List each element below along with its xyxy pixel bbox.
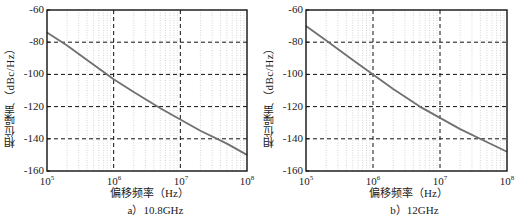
- x-axis-label: 偏移频率（Hz）: [279, 184, 518, 200]
- chart-panel-b: 相位噪声（dBc/Hz） -60 -80 -100 -120 -140 -160…: [259, 0, 518, 221]
- x-axis-label: 偏移频率（Hz）: [20, 184, 279, 200]
- chart-caption: a）10.8GHz: [26, 201, 285, 217]
- chart-panel-a: 相位噪声（dBc/Hz） -60 -80 -100 -120 -140 -160…: [0, 0, 259, 221]
- chart-caption: b）12GHz: [285, 201, 518, 217]
